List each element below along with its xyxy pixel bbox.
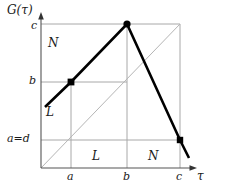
- region-label-l-bottom: L: [92, 150, 100, 162]
- marker-point-b-c: [123, 20, 130, 27]
- curve-g-tau: [45, 24, 189, 158]
- y-axis-label: G(τ): [7, 4, 33, 16]
- gridlines-vertical: [71, 24, 180, 168]
- x-tick-label-c: c: [176, 171, 182, 182]
- marker-point-a-b: [68, 79, 75, 86]
- region-label-n-bottom: N: [148, 150, 159, 162]
- figure-container: G(τ) τ c b a=d a b c N L L N: [0, 0, 227, 192]
- x-axis-label: τ: [197, 170, 204, 182]
- y-axis-arrowhead: [38, 12, 44, 20]
- region-label-l-lower: L: [46, 106, 54, 118]
- y-tick-label-a-equals-d: a=d: [7, 133, 30, 144]
- y-tick-label-c: c: [31, 20, 37, 31]
- region-label-n-upper: N: [48, 37, 59, 49]
- marker-point-c-a-d: [177, 137, 183, 143]
- x-tick-label-b: b: [123, 171, 130, 182]
- y-tick-label-b: b: [29, 75, 36, 86]
- x-axis-arrowhead: [190, 165, 198, 171]
- x-tick-label-a: a: [67, 171, 74, 182]
